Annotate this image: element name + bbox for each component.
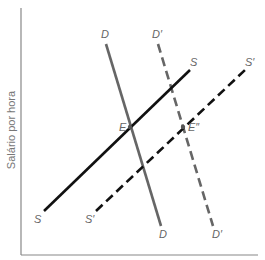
label-s-prime-top: S′ [245, 56, 255, 68]
demand-curve-d-prime [158, 44, 213, 226]
label-e: E [119, 121, 127, 133]
label-d-top: D [101, 28, 109, 40]
label-d-prime-top: D′ [152, 28, 163, 40]
label-e-double-prime: E″ [188, 121, 200, 133]
labor-market-diagram: Salário por hora D D D′ D′ S S S′ S′ E E… [0, 0, 265, 260]
label-s-bottom: S [34, 213, 42, 225]
label-s-top: S [190, 56, 198, 68]
y-axis-label: Salário por hora [5, 90, 17, 169]
label-d-bottom: D [159, 228, 167, 240]
equilibrium-point-e [128, 125, 132, 129]
demand-curve-d [106, 44, 161, 226]
label-d-prime-bottom: D′ [212, 228, 223, 240]
label-s-prime-bottom: S′ [85, 213, 95, 225]
equilibrium-point-e-double-prime [181, 125, 185, 129]
